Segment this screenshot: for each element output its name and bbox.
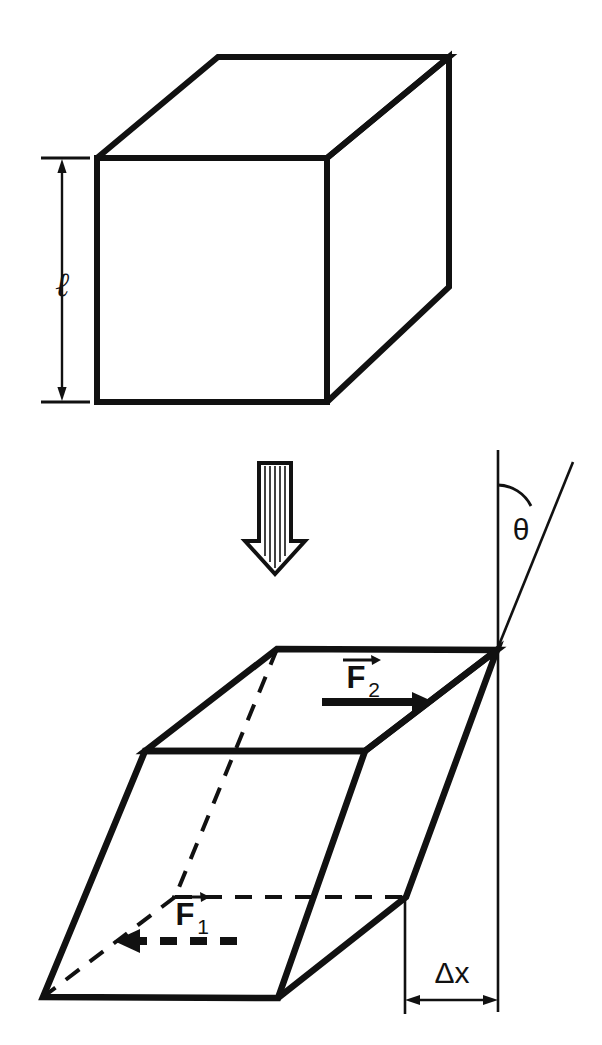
theta-label: θ	[513, 513, 530, 546]
force-bottom-label-group: F 1	[172, 892, 210, 938]
force-bottom-subscript: 1	[197, 915, 209, 938]
delta-x-label: Δx	[434, 956, 469, 989]
shear-deformation-figure: ℓ θ	[0, 0, 602, 1045]
force-bottom-label: F	[176, 897, 195, 932]
figure-canvas: ℓ θ	[0, 0, 602, 1045]
force-top-label-group: F 2	[343, 655, 381, 701]
force-top-subscript: 2	[368, 678, 380, 701]
length-label: ℓ	[55, 266, 69, 303]
force-top-label: F	[347, 660, 366, 695]
